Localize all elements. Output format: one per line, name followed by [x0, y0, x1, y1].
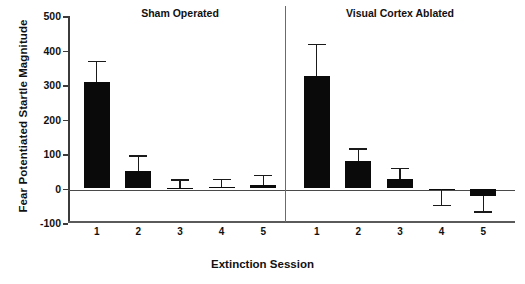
x-tick-label: 5	[480, 226, 486, 237]
plot-area: 5004003002001000-100 1234512345 Sham Ope…	[68, 16, 515, 223]
y-tick-mark	[63, 120, 68, 122]
error-bar-cap	[129, 155, 147, 157]
y-axis-line	[68, 16, 70, 223]
x-tick-label: 5	[260, 226, 266, 237]
error-bar-cap	[171, 179, 189, 181]
x-tick-label: 4	[439, 226, 445, 237]
error-bar-cap	[433, 205, 451, 207]
error-bar-cap	[213, 179, 231, 181]
x-tick-label: 3	[397, 226, 403, 237]
y-tick-label: 400	[43, 45, 61, 57]
x-tick-label: 1	[314, 226, 320, 237]
error-bar-stem	[316, 44, 317, 76]
error-bar-cap	[349, 148, 367, 150]
error-bar-cap	[391, 168, 409, 170]
y-tick-mark	[63, 85, 68, 87]
panel-title-sham: Sham Operated	[141, 7, 219, 19]
y-tick-mark	[63, 51, 68, 53]
bar	[250, 185, 276, 188]
y-tick-label: 500	[43, 10, 61, 22]
error-bar-cap	[254, 175, 272, 177]
error-bar-stem	[138, 155, 139, 171]
bar	[167, 188, 193, 189]
y-tick-label: 300	[43, 79, 61, 91]
y-tick-label: 0	[55, 183, 61, 195]
y-tick-mark	[63, 154, 68, 156]
y-tick-mark	[63, 223, 68, 225]
x-tick-label: 1	[94, 226, 100, 237]
x-tick-label: 2	[356, 226, 362, 237]
x-tick-label: 2	[136, 226, 142, 237]
error-bar-stem	[483, 196, 484, 211]
bar	[84, 82, 110, 188]
bar	[345, 161, 371, 189]
error-bar-stem	[263, 175, 264, 185]
y-tick-mark	[63, 16, 68, 18]
bar	[304, 76, 330, 189]
y-tick-mark	[63, 189, 68, 191]
x-tick-label: 4	[219, 226, 225, 237]
error-bar-cap	[308, 44, 326, 46]
x-axis-title: Extinction Session	[0, 258, 525, 270]
bar	[209, 187, 235, 188]
y-tick-label: -100	[40, 217, 61, 229]
error-bar-stem	[358, 148, 359, 160]
y-axis-title: Fear Potentiated Startle Magnitude	[10, 0, 36, 232]
error-bar-cap	[88, 61, 106, 63]
error-bar-stem	[441, 189, 442, 205]
bar	[470, 189, 496, 197]
zero-reference-line	[68, 190, 515, 191]
bar	[387, 179, 413, 189]
x-tick-label: 3	[177, 226, 183, 237]
x-axis-line	[68, 221, 515, 223]
error-bar-stem	[399, 168, 400, 179]
y-tick-label: 100	[43, 148, 61, 160]
panel-title-ablated: Visual Cortex Ablated	[346, 7, 454, 19]
chart-figure: Fear Potentiated Startle Magnitude 50040…	[0, 0, 525, 284]
bar	[125, 171, 151, 189]
error-bar-cap	[474, 211, 492, 213]
error-bar-stem	[96, 61, 97, 82]
panel-divider	[285, 6, 286, 222]
y-tick-label: 200	[43, 114, 61, 126]
